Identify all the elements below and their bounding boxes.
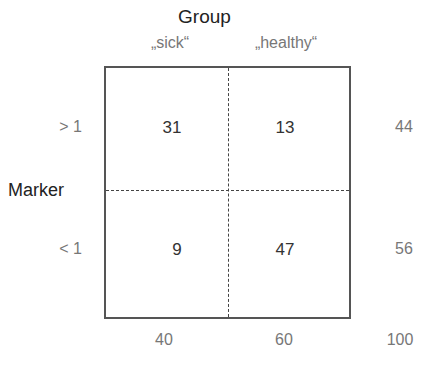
grand-total: 100: [370, 331, 429, 349]
marker-label: Marker: [8, 180, 64, 201]
cell-healthy-lt1: 47: [225, 240, 345, 260]
row-header-gt1: > 1: [22, 118, 82, 136]
cell-sick-lt1: 9: [117, 240, 237, 260]
col-total-sick: 40: [134, 331, 194, 349]
cell-healthy-gt1: 13: [225, 118, 345, 138]
col-total-healthy: 60: [254, 331, 314, 349]
horizontal-divider: [106, 190, 349, 191]
column-header-healthy: „healthy“: [226, 34, 346, 52]
row-header-lt1: < 1: [22, 240, 82, 258]
row-total-gt1: 44: [374, 118, 429, 136]
group-title: Group: [0, 6, 429, 28]
cell-sick-gt1: 31: [112, 118, 232, 138]
vertical-divider: [228, 68, 229, 317]
row-total-lt1: 56: [374, 240, 429, 258]
column-header-sick: „sick“: [110, 34, 230, 52]
